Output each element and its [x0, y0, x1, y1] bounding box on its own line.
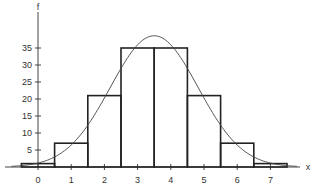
x-tick-label: 2	[102, 175, 107, 185]
x-tick-label: 4	[168, 175, 173, 185]
x-tick-label: 1	[69, 175, 74, 185]
y-tick-label: 5	[27, 145, 32, 155]
y-tick-label: 15	[22, 111, 32, 121]
x-tick-label: 6	[235, 175, 240, 185]
x-tick-label: 7	[268, 175, 273, 185]
histogram-bars	[21, 48, 287, 167]
histogram-bar	[121, 48, 154, 167]
histogram-bar	[88, 96, 121, 167]
histogram-bar	[55, 143, 88, 167]
x-axis-label: x	[306, 162, 311, 172]
y-tick-label: 25	[22, 77, 32, 87]
y-tick-label: 35	[22, 43, 32, 53]
histogram-bar	[187, 96, 220, 167]
y-tick-label: 10	[22, 128, 32, 138]
x-tick-label: 3	[135, 175, 140, 185]
x-tick-label: 5	[201, 175, 206, 185]
y-tick-label: 20	[22, 94, 32, 104]
y-axis-label: f	[37, 2, 40, 12]
histogram-bar	[154, 48, 187, 167]
axis-labels: 510152025303501234567fx	[22, 2, 311, 185]
x-tick-label: 0	[35, 175, 40, 185]
histogram-chart: 510152025303501234567fx	[0, 0, 316, 188]
y-tick-label: 30	[22, 60, 32, 70]
histogram-bar	[221, 143, 254, 167]
